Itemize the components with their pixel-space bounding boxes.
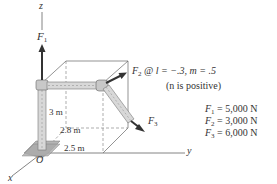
vertical-pipe	[38, 84, 46, 150]
pipe-force-diagram: z y x O F1 F2 @ l = −.3, m = .5 (n is po…	[0, 0, 277, 184]
f1-arrow-head	[39, 44, 46, 52]
f2-note: (n is positive)	[166, 80, 221, 91]
magnitude-f3: F3 = 6,000 N	[205, 127, 257, 140]
f1-label: F1	[37, 30, 47, 44]
y-axis-label: y	[187, 145, 191, 156]
pipe-elbow-1	[36, 80, 48, 90]
dimension-depth: 2.8 m	[60, 125, 81, 135]
f3-label: F3	[148, 115, 158, 128]
x-axis-label: x	[8, 172, 12, 183]
f2-direction-label: F2 @ l = −.3, m = .5	[132, 65, 216, 78]
dimension-height: 3 m	[49, 107, 63, 117]
f2-arrow-shaft	[106, 75, 122, 83]
dimension-width: 2.5 m	[64, 143, 85, 153]
z-axis-label: z	[39, 0, 43, 11]
origin-label: O	[36, 154, 43, 165]
